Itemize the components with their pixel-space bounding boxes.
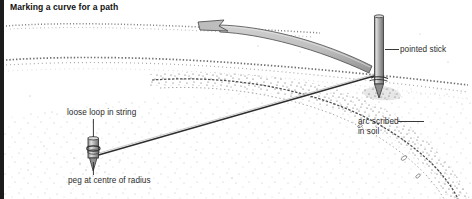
callout-loose-loop-in-string: loose loop in string	[67, 108, 136, 118]
callout-arc-scribed-line-1: arc scribed	[358, 117, 399, 127]
callout-peg-at-centre-of-radius: peg at centre of radius	[68, 176, 151, 186]
callout-pointed-stick: pointed stick	[400, 45, 446, 55]
callout-arc-scribed-line-2: in soil	[358, 127, 399, 137]
marking-a-curve-figure: Marking a curve for a path	[0, 0, 472, 199]
curved-sweep-arrow-icon	[198, 20, 372, 73]
illustration-canvas	[0, 0, 472, 199]
callout-arc-scribed-in-soil: arc scribed in soil	[358, 117, 399, 137]
